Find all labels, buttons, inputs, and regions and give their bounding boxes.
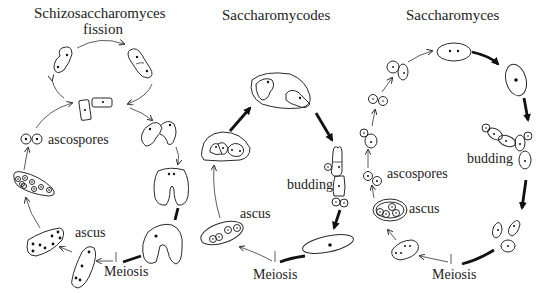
budding-label: budding xyxy=(287,178,333,192)
ascospores-label: ascospores xyxy=(387,167,448,181)
ascospores-pair xyxy=(364,172,382,186)
ascus-label: ascus xyxy=(75,226,105,240)
yeast-life-cycle-diagram: Schizosaccharomyces fission ascospores a… xyxy=(0,0,543,293)
arrow-icon xyxy=(388,230,396,240)
diploid-cell xyxy=(301,231,355,257)
arrow-icon xyxy=(524,98,528,120)
mating-cells xyxy=(387,61,408,80)
arrow-icon xyxy=(60,247,72,252)
panel-saccharomycodes xyxy=(198,73,355,262)
arrow-icon xyxy=(280,256,305,262)
fission-label: fission xyxy=(83,22,123,37)
diploid-cell-top xyxy=(437,43,471,61)
meiosis-label: Meiosis xyxy=(104,265,148,279)
ascus-four-spores xyxy=(373,199,407,221)
ascospores-pair xyxy=(21,134,42,144)
arrow-icon xyxy=(123,256,141,262)
ascus-with-ascospores xyxy=(14,172,55,196)
dividing-cell-left xyxy=(54,47,72,73)
budding-haploid xyxy=(360,129,377,148)
meiosis-cell xyxy=(143,224,183,264)
zygote xyxy=(154,168,189,205)
arrow-icon xyxy=(522,180,526,208)
conjugating-cells xyxy=(142,121,177,146)
arrow-icon xyxy=(128,84,152,104)
ascus-cell-bottom xyxy=(72,247,96,288)
arrow-icon xyxy=(77,40,124,48)
ascus-top xyxy=(251,73,310,109)
arrow-icon xyxy=(382,78,392,92)
arrow-icon xyxy=(130,108,152,120)
budding-label: budding xyxy=(467,152,513,166)
ascus-label: ascus xyxy=(240,207,270,221)
arrow-icon xyxy=(230,108,250,131)
dividing-cell-right xyxy=(128,49,152,78)
arrow-icon xyxy=(24,148,28,170)
ascus-with-nuclei xyxy=(27,228,64,256)
arrow-icon xyxy=(462,250,494,264)
arrow-icon xyxy=(472,52,498,64)
vegetative-cells xyxy=(79,98,112,121)
germinating-ascus xyxy=(201,132,250,161)
arrow-icon xyxy=(372,186,374,198)
arrow-icon xyxy=(334,210,340,228)
arrow-icon xyxy=(36,103,72,128)
arrow-icon xyxy=(420,256,448,262)
arrow-icon xyxy=(26,198,40,228)
ascus-label: ascus xyxy=(409,202,439,216)
meiosis-label: Meiosis xyxy=(432,268,476,282)
arrow-icon xyxy=(52,80,64,98)
diploid-cell xyxy=(502,62,530,98)
arrow-icon xyxy=(214,166,220,218)
arrow-icon xyxy=(176,147,179,164)
arrow-icon xyxy=(316,113,332,140)
panel-schizosaccharomyces xyxy=(14,40,189,288)
arrow-icon xyxy=(175,208,178,220)
meiotic-cell xyxy=(392,240,419,260)
meiosis-label: Meiosis xyxy=(253,268,297,282)
panel-title-saccharomyces: Saccharomyces xyxy=(406,8,499,23)
panel-title-schizosaccharomyces: Schizosaccharomyces xyxy=(34,6,166,21)
ascospores-label: ascospores xyxy=(48,133,109,147)
arrow-icon xyxy=(408,51,432,62)
arrow-icon xyxy=(372,110,375,126)
panel-title-saccharomycodes: Saccharomycodes xyxy=(222,8,330,23)
arrow-icon xyxy=(240,247,272,261)
ascus-four-spores xyxy=(198,217,246,250)
haploid-pair xyxy=(369,95,388,106)
haploid-cells xyxy=(492,220,520,252)
